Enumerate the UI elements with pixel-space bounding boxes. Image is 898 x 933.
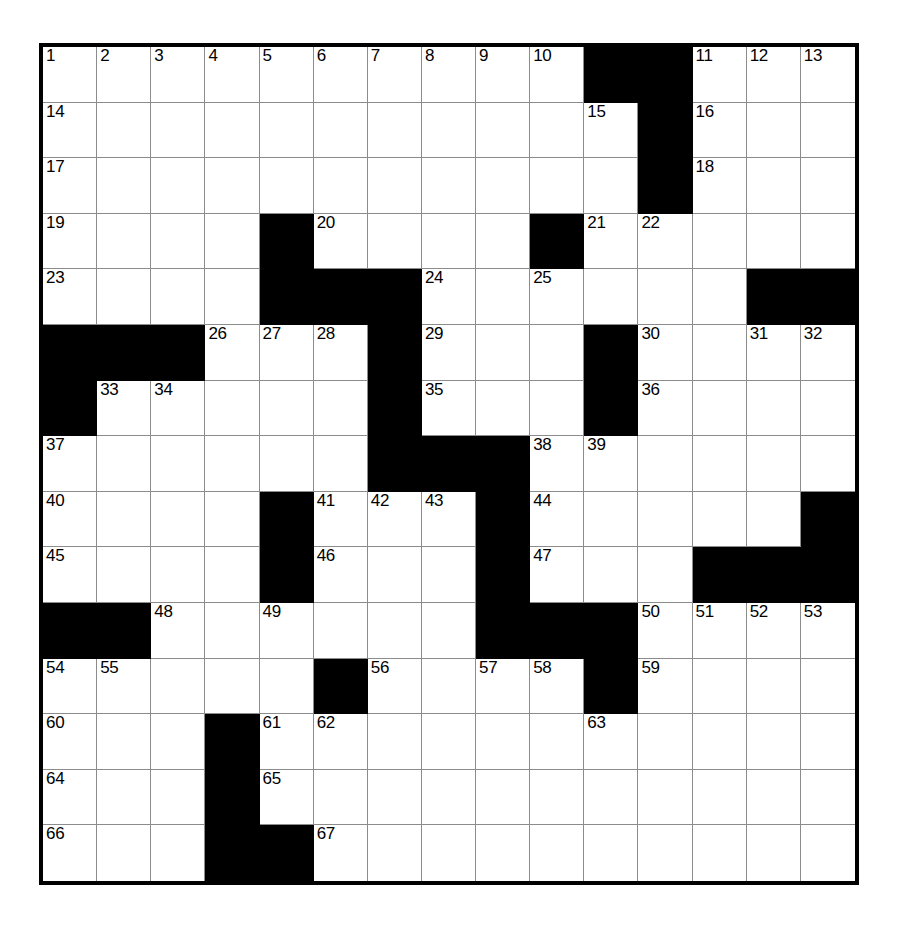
grid-open-cell[interactable] (584, 158, 638, 214)
grid-open-cell[interactable] (476, 158, 530, 214)
grid-open-cell[interactable] (422, 714, 476, 770)
grid-open-cell[interactable]: 52 (747, 603, 801, 659)
grid-open-cell[interactable] (584, 825, 638, 881)
grid-open-cell[interactable] (476, 825, 530, 881)
grid-open-cell[interactable] (801, 436, 855, 492)
grid-open-cell[interactable]: 39 (584, 436, 638, 492)
grid-open-cell[interactable]: 36 (638, 381, 692, 437)
grid-open-cell[interactable] (97, 436, 151, 492)
grid-open-cell[interactable] (693, 659, 747, 715)
grid-open-cell[interactable]: 66 (43, 825, 97, 881)
grid-open-cell[interactable] (97, 825, 151, 881)
grid-open-cell[interactable] (693, 269, 747, 325)
grid-open-cell[interactable]: 13 (801, 47, 855, 103)
grid-open-cell[interactable]: 53 (801, 603, 855, 659)
grid-open-cell[interactable]: 24 (422, 269, 476, 325)
grid-open-cell[interactable]: 64 (43, 770, 97, 826)
grid-open-cell[interactable] (638, 547, 692, 603)
grid-open-cell[interactable]: 51 (693, 603, 747, 659)
grid-open-cell[interactable] (314, 103, 368, 159)
grid-open-cell[interactable] (205, 436, 259, 492)
grid-open-cell[interactable] (205, 659, 259, 715)
grid-open-cell[interactable] (314, 381, 368, 437)
grid-open-cell[interactable] (151, 825, 205, 881)
grid-open-cell[interactable] (638, 492, 692, 548)
grid-open-cell[interactable]: 31 (747, 325, 801, 381)
grid-open-cell[interactable]: 18 (693, 158, 747, 214)
grid-open-cell[interactable] (97, 158, 151, 214)
grid-open-cell[interactable] (260, 436, 314, 492)
grid-open-cell[interactable]: 8 (422, 47, 476, 103)
grid-open-cell[interactable]: 29 (422, 325, 476, 381)
grid-open-cell[interactable] (638, 825, 692, 881)
grid-open-cell[interactable]: 3 (151, 47, 205, 103)
grid-open-cell[interactable]: 30 (638, 325, 692, 381)
grid-open-cell[interactable] (151, 547, 205, 603)
grid-open-cell[interactable] (476, 214, 530, 270)
grid-open-cell[interactable] (368, 714, 422, 770)
grid-open-cell[interactable]: 40 (43, 492, 97, 548)
grid-open-cell[interactable]: 54 (43, 659, 97, 715)
grid-open-cell[interactable] (801, 825, 855, 881)
grid-open-cell[interactable]: 49 (260, 603, 314, 659)
grid-open-cell[interactable] (260, 103, 314, 159)
grid-open-cell[interactable] (747, 214, 801, 270)
grid-open-cell[interactable]: 27 (260, 325, 314, 381)
grid-open-cell[interactable] (151, 492, 205, 548)
grid-open-cell[interactable] (97, 269, 151, 325)
grid-open-cell[interactable] (205, 381, 259, 437)
grid-open-cell[interactable] (422, 770, 476, 826)
grid-open-cell[interactable] (747, 103, 801, 159)
grid-open-cell[interactable]: 42 (368, 492, 422, 548)
grid-open-cell[interactable] (476, 103, 530, 159)
grid-open-cell[interactable] (693, 325, 747, 381)
grid-open-cell[interactable] (97, 492, 151, 548)
grid-open-cell[interactable] (151, 714, 205, 770)
grid-open-cell[interactable] (476, 381, 530, 437)
grid-open-cell[interactable] (314, 436, 368, 492)
grid-open-cell[interactable]: 62 (314, 714, 368, 770)
grid-open-cell[interactable] (422, 103, 476, 159)
grid-open-cell[interactable] (584, 547, 638, 603)
grid-open-cell[interactable] (747, 714, 801, 770)
grid-open-cell[interactable] (747, 770, 801, 826)
grid-open-cell[interactable] (97, 214, 151, 270)
grid-open-cell[interactable] (638, 436, 692, 492)
grid-open-cell[interactable] (747, 659, 801, 715)
grid-open-cell[interactable] (801, 770, 855, 826)
grid-open-cell[interactable] (205, 158, 259, 214)
grid-open-cell[interactable] (368, 214, 422, 270)
grid-open-cell[interactable]: 20 (314, 214, 368, 270)
grid-open-cell[interactable] (747, 436, 801, 492)
grid-open-cell[interactable] (476, 770, 530, 826)
grid-open-cell[interactable] (584, 492, 638, 548)
grid-open-cell[interactable] (205, 603, 259, 659)
grid-open-cell[interactable] (151, 770, 205, 826)
grid-open-cell[interactable]: 12 (747, 47, 801, 103)
grid-open-cell[interactable] (693, 381, 747, 437)
grid-open-cell[interactable] (97, 103, 151, 159)
grid-open-cell[interactable] (422, 659, 476, 715)
grid-open-cell[interactable] (205, 492, 259, 548)
grid-open-cell[interactable] (97, 714, 151, 770)
grid-open-cell[interactable] (693, 714, 747, 770)
grid-open-cell[interactable] (530, 158, 584, 214)
grid-open-cell[interactable] (476, 269, 530, 325)
grid-open-cell[interactable]: 55 (97, 659, 151, 715)
grid-open-cell[interactable] (530, 714, 584, 770)
grid-open-cell[interactable]: 58 (530, 659, 584, 715)
grid-open-cell[interactable]: 23 (43, 269, 97, 325)
grid-open-cell[interactable] (801, 103, 855, 159)
grid-open-cell[interactable] (422, 158, 476, 214)
grid-open-cell[interactable]: 17 (43, 158, 97, 214)
crossword-grid[interactable]: 1234567891011121314151617181920212223242… (39, 43, 859, 885)
grid-open-cell[interactable]: 15 (584, 103, 638, 159)
grid-open-cell[interactable] (422, 547, 476, 603)
grid-open-cell[interactable]: 21 (584, 214, 638, 270)
grid-open-cell[interactable]: 48 (151, 603, 205, 659)
grid-open-cell[interactable]: 26 (205, 325, 259, 381)
grid-open-cell[interactable] (97, 547, 151, 603)
grid-open-cell[interactable] (97, 770, 151, 826)
grid-open-cell[interactable] (801, 158, 855, 214)
grid-open-cell[interactable]: 4 (205, 47, 259, 103)
